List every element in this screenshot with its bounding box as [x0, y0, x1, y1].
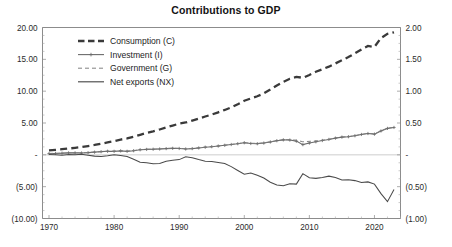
x-axis-tick-label: 2010	[300, 223, 319, 232]
right-axis-tick-label: -	[406, 151, 409, 160]
legend-item-consumption: Consumption (C)	[78, 36, 175, 46]
right-axis-tick-label: 0.50	[406, 119, 422, 128]
axes-layer: (10.00)(5.00)-5.0010.0015.0020.00(1.00)(…	[12, 24, 428, 232]
left-axis-tick-label: -	[35, 151, 38, 160]
x-axis-tick-label: 2000	[235, 223, 254, 232]
chart-plot-area: (10.00)(5.00)-5.0010.0015.0020.00(1.00)(…	[0, 0, 452, 247]
series-line-netexports	[49, 154, 394, 201]
right-axis-tick-label: 1.00	[406, 87, 422, 96]
legend-label-netexports: Net exports (NX)	[110, 77, 174, 87]
contributions-to-gdp-chart: Contributions to GDP (10.00)(5.00)-5.001…	[0, 0, 452, 247]
left-axis-tick-label: (10.00)	[12, 215, 38, 224]
series-markers-investment	[47, 126, 395, 155]
legend-item-government: Government (G)	[78, 63, 172, 73]
legend-item-netexports: Net exports (NX)	[78, 77, 174, 87]
plot-frame	[43, 28, 401, 219]
left-axis-tick-label: 15.00	[17, 55, 38, 64]
right-axis-tick-label: 1.50	[406, 55, 422, 64]
series-line-government	[49, 127, 394, 153]
x-axis-tick-label: 1990	[170, 223, 189, 232]
legend-item-investment: Investment (I)	[78, 50, 163, 60]
legend-layer: Consumption (C)Investment (I)Government …	[78, 36, 175, 87]
series-line-investment	[49, 127, 394, 153]
legend-label-government: Government (G)	[110, 63, 172, 73]
right-axis-tick-label: 2.00	[406, 24, 422, 33]
series-line-consumption	[49, 32, 394, 150]
series-layer	[47, 32, 395, 201]
legend-label-investment: Investment (I)	[110, 50, 163, 60]
chart-title: Contributions to GDP	[0, 4, 452, 16]
x-axis-tick-label: 1980	[105, 223, 124, 232]
left-axis-tick-label: (5.00)	[16, 183, 38, 192]
legend-label-consumption: Consumption (C)	[110, 36, 175, 46]
right-axis-tick-label: (1.00)	[406, 215, 428, 224]
left-axis-tick-label: 20.00	[17, 24, 38, 33]
left-axis-tick-label: 5.00	[22, 119, 38, 128]
right-axis-tick-label: (0.50)	[406, 183, 428, 192]
x-axis-tick-label: 1970	[40, 223, 59, 232]
x-axis-tick-label: 2020	[365, 223, 384, 232]
left-axis-tick-label: 10.00	[17, 87, 38, 96]
